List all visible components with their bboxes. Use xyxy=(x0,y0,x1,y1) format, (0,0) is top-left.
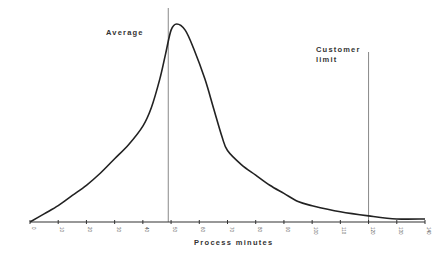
x-tick-label: 30 xyxy=(116,227,121,233)
marker-lines xyxy=(168,8,368,222)
customer-limit-label: Customer limit xyxy=(316,45,361,65)
distribution-curve xyxy=(30,24,425,222)
customer-limit-label-line2: limit xyxy=(316,55,361,65)
x-axis-title: Process minutes xyxy=(194,238,274,247)
average-label: Average xyxy=(106,28,144,38)
x-tick-label: 50 xyxy=(172,227,177,233)
x-tick-label: 100 xyxy=(313,227,318,235)
distribution-chart: 0102030405060708090100110120130140 xyxy=(0,0,445,261)
x-tick-label: 20 xyxy=(87,227,92,233)
x-tick-label: 10 xyxy=(59,227,64,233)
x-tick-label: 60 xyxy=(200,227,205,233)
x-tick-label: 120 xyxy=(370,227,375,235)
x-tick-label: 70 xyxy=(229,227,234,233)
x-tick-label: 80 xyxy=(257,227,262,233)
x-tick-label: 0 xyxy=(31,227,36,230)
x-tick-label: 140 xyxy=(426,227,431,235)
x-tick-label: 130 xyxy=(398,227,403,235)
customer-limit-label-line1: Customer xyxy=(316,45,361,55)
x-tick-label: 40 xyxy=(144,227,149,233)
x-tick-label: 110 xyxy=(341,227,346,235)
x-tick-label: 90 xyxy=(285,227,290,233)
